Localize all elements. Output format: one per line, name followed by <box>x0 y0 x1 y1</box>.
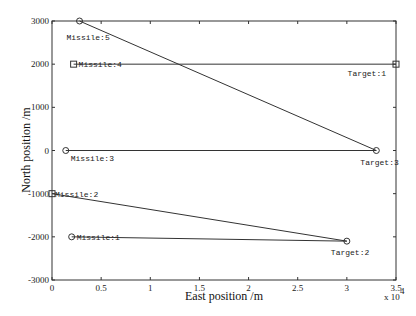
point-markers <box>49 18 399 244</box>
missile-5-label: Missile:5 <box>67 33 110 42</box>
y-tick-label: 0 <box>45 146 50 156</box>
y-tick-label: 1000 <box>31 102 50 112</box>
target-2-label: Target:2 <box>331 248 370 257</box>
x-tick-label: 2.5 <box>292 283 304 293</box>
y-tick-label: -2000 <box>28 232 49 242</box>
y-axis-label: North position /m <box>19 107 33 193</box>
missile-4-label: Missile:4 <box>79 60 122 69</box>
x-multiplier-label: x 10 <box>384 292 400 302</box>
trajectory-lines <box>52 21 396 241</box>
x-tick-label: 1 <box>148 283 153 293</box>
x-tick-label: 3 <box>345 283 350 293</box>
trajectory-chart: 00.511.522.533.5 -3000-2000-100001000200… <box>0 0 416 316</box>
x-axis-label: East position /m <box>185 289 264 303</box>
y-tick-label: 2000 <box>31 59 50 69</box>
missile-5-trajectory <box>80 21 377 151</box>
x-tick-label: 0 <box>50 283 55 293</box>
x-multiplier-exponent: 4 <box>400 286 405 296</box>
target-3-label: Target:3 <box>360 158 399 167</box>
x-tick-label: 0.5 <box>96 283 108 293</box>
target-1-label: Target:1 <box>348 69 387 78</box>
missile-1-label: Missile:1 <box>77 233 120 242</box>
y-tick-label: 3000 <box>31 16 50 26</box>
missile-3-label: Missile:3 <box>71 154 114 163</box>
y-tick-label: -3000 <box>28 275 49 285</box>
missile-2-label: Missile:2 <box>55 190 98 199</box>
point-labels: Missile:1Missile:2Missile:3Missile:4Miss… <box>55 33 399 257</box>
